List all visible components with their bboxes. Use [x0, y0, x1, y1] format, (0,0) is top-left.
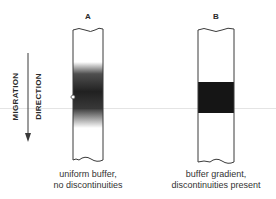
migration-label-line1: MIGRATION [11, 72, 20, 122]
tube-b [198, 28, 234, 163]
column-a-label: A [78, 12, 98, 21]
tube-a-band [73, 62, 103, 128]
migration-arrow-icon [25, 53, 31, 142]
caption-a-line2: no discontinuities [23, 180, 153, 191]
caption-a-line1: uniform buffer, [23, 169, 153, 180]
migration-label-line2: DIRECTION [34, 72, 43, 122]
tube-a [71, 28, 103, 161]
caption-a: uniform buffer, no discontinuities [23, 169, 153, 191]
tube-a-marker [71, 95, 75, 99]
caption-b-line2: discontinuities present [151, 180, 276, 191]
caption-b: buffer gradient, discontinuities present [151, 169, 276, 191]
caption-b-line1: buffer gradient, [151, 169, 276, 180]
column-b-label: B [206, 12, 226, 21]
tube-b-band [198, 82, 234, 113]
